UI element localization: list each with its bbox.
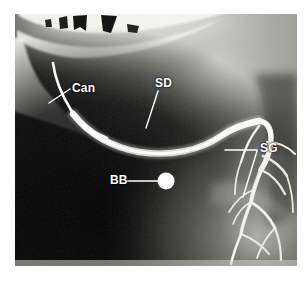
radiograph-image (15, 14, 297, 266)
film-grain (15, 14, 297, 266)
figure-root: Can SD SG BB (0, 0, 307, 281)
radiograph-canvas (15, 14, 297, 266)
film-bottom-edge (15, 260, 297, 266)
